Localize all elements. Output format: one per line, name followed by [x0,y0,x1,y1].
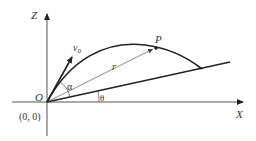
point-p-label: P [154,33,162,45]
point-p [154,46,158,50]
velocity-label: v0 [73,42,81,55]
alpha-label: α [67,81,73,92]
velocity-vector [47,57,72,102]
radius-label: r [112,61,116,72]
x-axis-label: X [235,108,244,120]
theta-arc [98,91,99,102]
origin-label: O [35,91,43,103]
z-axis-label: Z [31,9,38,21]
projectile-diagram: Z X O (0, 0) v0 P r α θ [0,0,256,141]
incline-line [47,62,230,102]
theta-label: θ [100,93,104,103]
origin-coords-label: (0, 0) [19,111,41,123]
